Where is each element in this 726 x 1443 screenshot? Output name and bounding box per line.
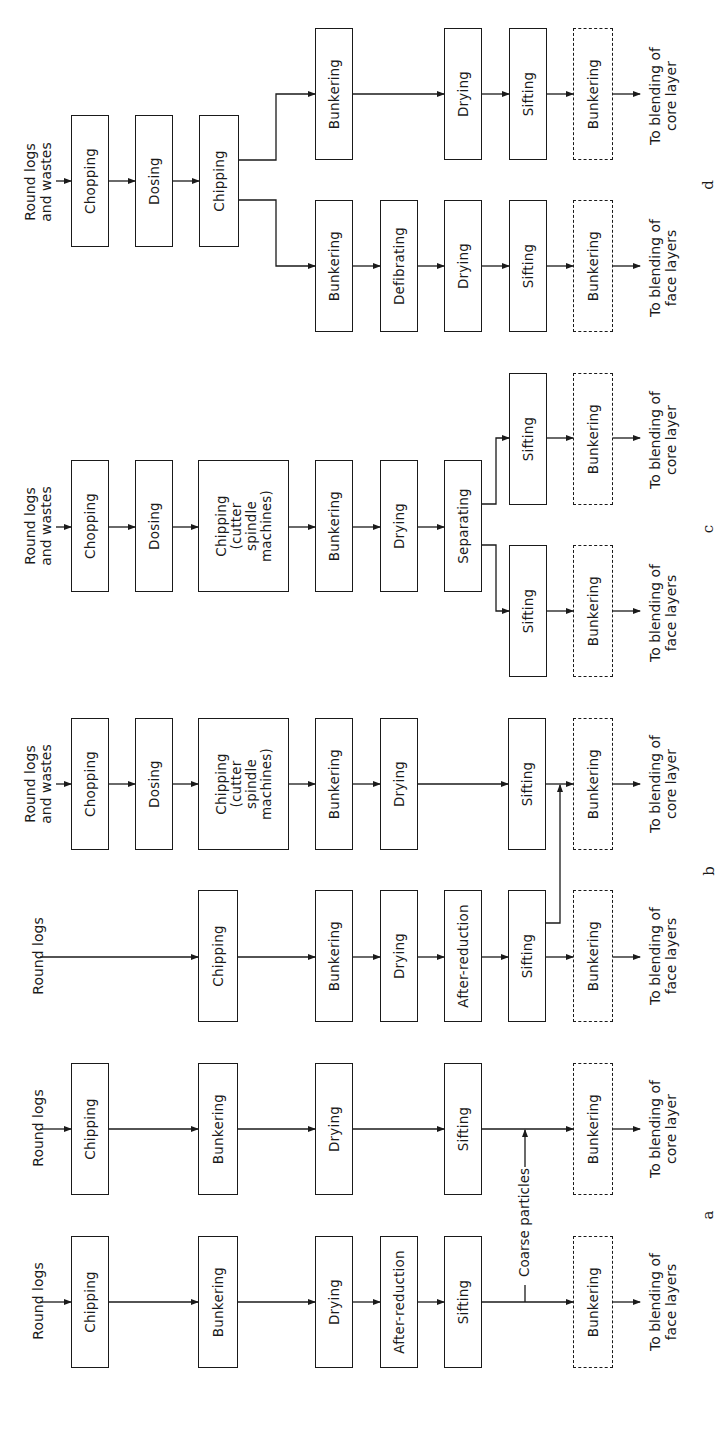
output-label-b-face: To blending offace layers: [647, 906, 679, 1006]
input-label-c: Round logsand wastes: [22, 476, 54, 576]
step-drying-a-core: Drying: [315, 1063, 353, 1195]
step-bunkering-a-core-final: Bunkering: [573, 1063, 613, 1195]
step-bunkering-a-core: Bunkering: [198, 1063, 238, 1195]
output-label-a-core: To blending ofcore layer: [647, 1079, 679, 1179]
step-drying-b-core: Drying: [380, 718, 418, 850]
output-label-c-face: To blending offace layers: [647, 563, 679, 663]
step-sifting-b-core: Sifting: [508, 718, 546, 850]
step-bunkering-c-face-final: Bunkering: [573, 545, 613, 677]
output-label-b-core: To blending ofcore layer: [647, 734, 679, 834]
step-dosing-c: Dosing: [135, 460, 173, 592]
step-chopping-b: Chopping: [71, 718, 109, 850]
step-chipping-csm-b: Chipping(cutterspindlemachines): [198, 718, 289, 850]
step-sifting-c-core: Sifting: [509, 373, 547, 505]
step-bunkering-a-face-final: Bunkering: [573, 1236, 613, 1368]
panel-letter-c: c: [699, 525, 717, 533]
output-label-d-core: To blending ofcore layer: [647, 46, 679, 146]
step-separating-c: Separating: [444, 460, 482, 592]
step-bunkering-b-core-final: Bunkering: [573, 718, 613, 850]
step-bunkering-c: Bunkering: [315, 460, 353, 592]
process-flow-diagram: Round logsand wastes Chopping Dosing Chi…: [0, 0, 726, 1443]
step-bunkering-b-face: Bunkering: [315, 890, 353, 1022]
panel-letter-d: d: [699, 180, 717, 190]
step-bunkering-d-face: Bunkering: [315, 200, 353, 332]
panel-letter-a: a: [699, 1211, 717, 1220]
step-chopping-c: Chopping: [71, 460, 109, 592]
step-bunkering-c-core-final: Bunkering: [573, 373, 613, 505]
step-bunkering-a-face: Bunkering: [198, 1236, 238, 1368]
step-bunkering-d-core: Bunkering: [315, 28, 353, 160]
step-dosing-b: Dosing: [135, 718, 173, 850]
step-sifting-d-face: Sifting: [509, 200, 547, 332]
step-sifting-d-core: Sifting: [509, 28, 547, 160]
input-label-b-face: Round logs: [30, 906, 46, 1006]
input-label-d: Round logsand wastes: [22, 132, 54, 232]
output-label-d-face: To blending offace layers: [647, 218, 679, 318]
step-defibrating-d-face: Defibrating: [380, 200, 418, 332]
step-bunkering-d-core-final: Bunkering: [573, 28, 613, 160]
step-chipping-a-core: Chipping: [71, 1063, 109, 1195]
step-sifting-b-face: Sifting: [508, 890, 546, 1022]
step-chipping-csm-c: Chipping(cutterspindlemachines): [198, 460, 289, 592]
step-bunkering-d-face-final: Bunkering: [573, 200, 613, 332]
step-chipping-a-face: Chipping: [71, 1236, 109, 1368]
step-sifting-a-face: Sifting: [444, 1236, 482, 1368]
output-label-a-face: To blending offace layers: [647, 1252, 679, 1352]
step-sifting-c-face: Sifting: [509, 545, 547, 677]
step-drying-a-face: Drying: [315, 1236, 353, 1368]
input-label-a-face: Round logs: [30, 1251, 46, 1351]
step-drying-c: Drying: [380, 460, 418, 592]
step-drying-d-core: Drying: [444, 28, 482, 160]
input-label-a-core: Round logs: [30, 1078, 46, 1178]
step-drying-d-face: Drying: [444, 200, 482, 332]
step-after-reduction-b-face: After-reduction: [444, 890, 482, 1022]
step-dosing-d: Dosing: [135, 115, 173, 247]
step-after-reduction-a-face: After-reduction: [380, 1236, 418, 1368]
coarse-particles-label: Coarse particles: [516, 1173, 532, 1277]
step-chipping-b-face: Chipping: [198, 890, 238, 1022]
step-bunkering-b-face-final: Bunkering: [573, 890, 613, 1022]
step-sifting-a-core: Sifting: [444, 1063, 482, 1195]
step-chopping-d: Chopping: [71, 115, 109, 247]
step-chipping-d: Chipping: [199, 115, 239, 247]
input-label-b-core: Round logsand wastes: [22, 734, 54, 834]
step-drying-b-face: Drying: [380, 890, 418, 1022]
output-label-c-core: To blending ofcore layer: [647, 390, 679, 490]
panel-letter-b: b: [700, 866, 718, 876]
step-bunkering-b-core: Bunkering: [315, 718, 353, 850]
